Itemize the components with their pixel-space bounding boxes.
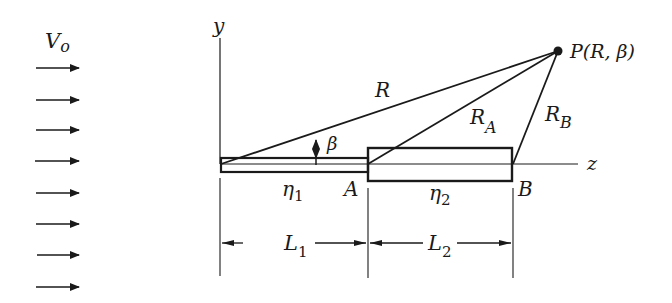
y-axis-label: y — [212, 14, 225, 38]
diagram-svg: Vo y z P(R, β) R RA RB β η1 A η2 B L — [0, 0, 672, 303]
eta1-label: η1 — [282, 177, 304, 205]
diagram-canvas: Vo y z P(R, β) R RA RB β η1 A η2 B L — [0, 0, 672, 303]
RA-label: RA — [469, 105, 497, 137]
R-label: R — [374, 78, 390, 102]
flow-arrows — [35, 68, 79, 287]
L2-label: L2 — [427, 231, 452, 261]
velocity-label: Vo — [45, 29, 70, 56]
rod-segment-1 — [221, 158, 368, 172]
RB-label: RB — [544, 102, 572, 132]
point-P — [554, 47, 563, 56]
dimension-extension-lines — [220, 178, 513, 278]
L1-label: L1 — [283, 231, 308, 261]
A-label: A — [342, 177, 358, 201]
point-P-label: P(R, β) — [569, 40, 635, 62]
eta2-label: η2 — [429, 181, 451, 209]
B-label: B — [517, 177, 533, 201]
beta-label: β — [326, 133, 337, 154]
z-axis-label: z — [586, 152, 598, 174]
